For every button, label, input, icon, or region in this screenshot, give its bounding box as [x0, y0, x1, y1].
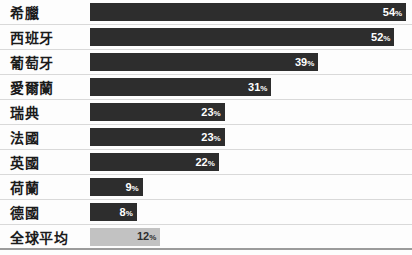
row-label: 英國 — [0, 152, 90, 172]
chart-row: 愛爾蘭31% — [0, 75, 412, 100]
bar: 8% — [90, 203, 137, 221]
bar: 54% — [90, 3, 406, 21]
chart-row: 德國8% — [0, 200, 412, 225]
value-label: 23% — [201, 107, 220, 118]
percent-sign: % — [214, 134, 221, 143]
bar: 52% — [90, 28, 394, 46]
chart-row: 法國23% — [0, 125, 412, 150]
bar-area: 52% — [90, 28, 412, 46]
percent-sign: % — [126, 209, 133, 218]
chart-row: 英國22% — [0, 150, 412, 175]
chart-row: 全球平均12% — [0, 225, 412, 250]
percent-sign: % — [208, 159, 215, 168]
row-label: 瑞典 — [0, 102, 90, 122]
bar: 39% — [90, 53, 318, 71]
row-label: 愛爾蘭 — [0, 77, 90, 97]
bar-area: 12% — [90, 228, 412, 246]
bar-area: 54% — [90, 3, 412, 21]
row-label: 希臘 — [0, 2, 90, 22]
bar-area: 8% — [90, 203, 412, 221]
chart-row: 西班牙52% — [0, 25, 412, 50]
percent-sign: % — [307, 59, 314, 68]
percent-sign: % — [260, 84, 267, 93]
bar-area: 22% — [90, 153, 412, 171]
value-label: 54% — [383, 7, 402, 18]
bar-area: 23% — [90, 103, 412, 121]
percent-sign: % — [132, 184, 139, 193]
percent-sign: % — [214, 109, 221, 118]
bar-area: 9% — [90, 178, 412, 196]
row-label: 荷蘭 — [0, 177, 90, 197]
bar-area: 23% — [90, 128, 412, 146]
value-label: 31% — [248, 82, 267, 93]
bar: 12% — [90, 228, 160, 246]
bar-chart: 希臘54%西班牙52%葡萄牙39%愛爾蘭31%瑞典23%法國23%英國22%荷蘭… — [0, 0, 412, 255]
bar: 22% — [90, 153, 219, 171]
percent-sign: % — [395, 9, 402, 18]
bar: 31% — [90, 78, 271, 96]
chart-row: 葡萄牙39% — [0, 50, 412, 75]
row-label: 西班牙 — [0, 27, 90, 47]
chart-row: 荷蘭9% — [0, 175, 412, 200]
row-label: 全球平均 — [0, 227, 90, 247]
value-label: 39% — [295, 57, 314, 68]
value-label: 23% — [201, 132, 220, 143]
row-label: 法國 — [0, 127, 90, 147]
value-label: 12% — [137, 231, 156, 242]
chart-row: 瑞典23% — [0, 100, 412, 125]
percent-sign: % — [149, 233, 156, 242]
chart-row: 希臘54% — [0, 0, 412, 25]
bar: 23% — [90, 103, 225, 121]
bar: 23% — [90, 128, 225, 146]
value-label: 9% — [125, 182, 138, 193]
bar-area: 31% — [90, 78, 412, 96]
percent-sign: % — [383, 34, 390, 43]
value-label: 8% — [120, 207, 133, 218]
bar-area: 39% — [90, 53, 412, 71]
bar: 9% — [90, 178, 143, 196]
value-label: 52% — [371, 32, 390, 43]
row-label: 葡萄牙 — [0, 52, 90, 72]
row-label: 德國 — [0, 202, 90, 222]
value-label: 22% — [195, 157, 214, 168]
